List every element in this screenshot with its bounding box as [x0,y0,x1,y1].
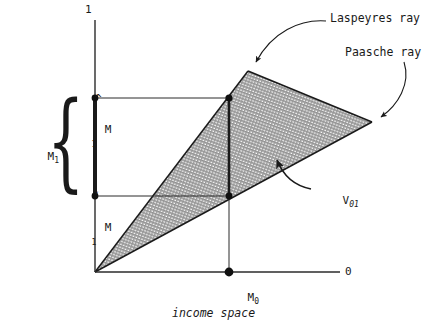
label-m1-check-base: M [105,221,112,234]
caron-accent-icon: ˅ [94,192,99,202]
label-v01-subscript: 01 [349,200,359,209]
figure-caption: income space [172,308,255,320]
annotation-laspeyres-ray: Laspeyres ray [330,13,420,25]
label-m1-check-subscript: 1 [92,238,97,247]
label-m1-subscript: 1 [54,156,59,165]
point-upper-intersection [225,94,232,101]
point-m0 [225,268,234,277]
v01-region [95,71,372,272]
laspeyres-leader-arrow [256,21,326,62]
paasche-leader-arrow [381,62,406,117]
point-lower-intersection [226,193,233,200]
label-m1-hat-subscript: 1 [92,140,97,149]
label-m1: M1 [21,140,59,173]
y-axis-tick-label: 1 [85,4,92,15]
income-space-figure: 1 0 ^ M 1 ˅ M 1 { M1 M0 V01 Laspeyres ra… [0,0,441,331]
x-axis-tick-label: 0 [345,266,352,277]
label-m1-hat-base: M [105,123,112,136]
label-m0-subscript: 0 [254,297,259,306]
annotation-paasche-ray: Paasche ray [345,47,421,59]
hat-accent-icon: ^ [94,94,102,104]
label-v01: V01 [316,184,359,217]
